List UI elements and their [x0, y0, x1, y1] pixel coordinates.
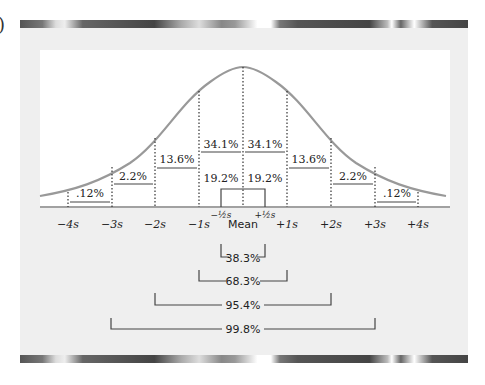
- region-label: 13.6%: [160, 153, 195, 166]
- region-label: .12%: [76, 187, 104, 200]
- x-tick-label: −2s: [144, 218, 166, 231]
- region-label: .12%: [383, 187, 411, 200]
- bracket-label: 95.4%: [226, 299, 261, 312]
- bracket-label: 68.3%: [226, 275, 261, 288]
- half-sd-tick-label: +½s: [255, 210, 276, 220]
- x-tick-label: −4s: [57, 218, 79, 231]
- x-tick-label: +2s: [320, 218, 342, 231]
- x-tick-label: +4s: [407, 218, 429, 231]
- x-tick-label: −3s: [101, 218, 123, 231]
- half-sd-label: 19.2%: [248, 172, 283, 185]
- region-label: 2.2%: [119, 170, 147, 183]
- bracket-label: 99.8%: [226, 323, 261, 336]
- plot-area: [40, 50, 450, 208]
- half-sd-label: 19.2%: [204, 172, 239, 185]
- x-tick-label: +1s: [276, 218, 298, 231]
- x-tick-label-mean: Mean: [228, 218, 258, 231]
- region-label: 2.2%: [339, 170, 367, 183]
- x-tick-label: +3s: [364, 218, 386, 231]
- x-tick-label: −1s: [188, 218, 210, 231]
- half-sd-tick-label: −½s: [211, 210, 232, 220]
- region-label: 34.1%: [248, 138, 283, 151]
- normal-distribution-diagram: .12% 2.2% 13.6% 34.1% 34.1% 13.6% 2.2% .…: [0, 0, 485, 385]
- bracket-label: 38.3%: [226, 252, 261, 265]
- region-label: 13.6%: [292, 153, 327, 166]
- region-label: 34.1%: [204, 138, 239, 151]
